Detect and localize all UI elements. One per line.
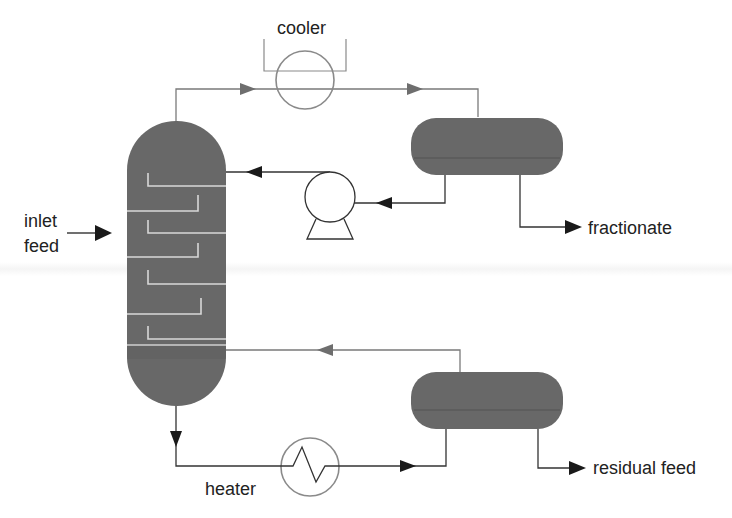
flow-arrow-icon	[569, 461, 586, 475]
residual-feed-label: residual feed	[593, 457, 696, 479]
overhead-vapor-line	[176, 89, 478, 121]
inlet-feed-line	[67, 225, 112, 241]
flow-arrow-icon	[246, 166, 262, 178]
heater-label: heater	[205, 478, 256, 500]
overhead-accumulator-drum	[411, 118, 563, 175]
flow-arrow-icon	[400, 460, 416, 472]
cooler-exchanger	[264, 39, 346, 109]
fractionate-line	[520, 175, 568, 227]
flow-arrow-icon	[376, 197, 392, 209]
cooler-label: cooler	[277, 17, 326, 39]
flow-arrow-icon	[170, 431, 182, 447]
bottoms-to-heater-line	[176, 406, 446, 466]
distillation-column	[127, 121, 226, 406]
reflux-pump	[305, 172, 355, 239]
bottoms-return-line	[226, 350, 460, 372]
flow-arrow-icon	[407, 83, 423, 95]
diagram-canvas	[0, 0, 732, 518]
flow-arrow-icon	[565, 220, 582, 234]
heater-exchanger	[278, 438, 342, 496]
feed-label: feed	[24, 235, 59, 257]
fractionate-label: fractionate	[588, 217, 672, 239]
bottoms-drum	[411, 372, 563, 429]
inlet-label: inlet	[24, 210, 57, 232]
residual-feed-line	[538, 429, 572, 468]
process-diagram: cooler inlet feed fractionate heater res…	[0, 0, 732, 518]
flow-arrow-icon	[240, 83, 256, 95]
flow-arrow-icon	[95, 225, 112, 241]
flow-arrow-icon	[317, 344, 333, 356]
